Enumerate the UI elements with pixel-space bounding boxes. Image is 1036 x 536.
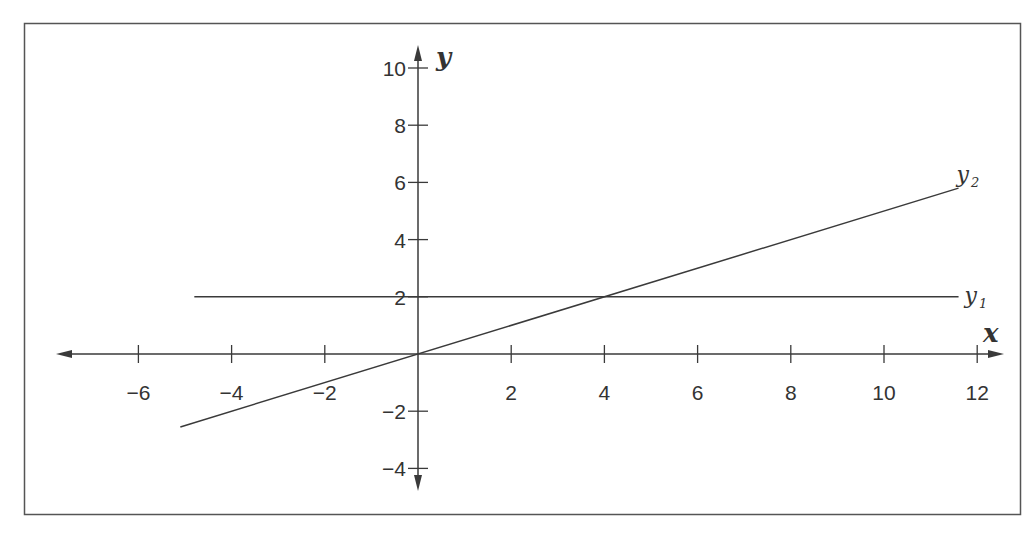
y-tick-label: 2 [394,286,406,309]
x-tick-label: 2 [505,381,517,404]
labels: −6−4−224681012−4−2246810y1y2xy [126,42,999,480]
series-label-y2: y2 [956,162,980,190]
y-tick-label: −2 [382,400,406,423]
x-tick-label: −4 [220,381,244,404]
x-axis-right-arrow [988,350,1004,358]
x-tick-label: 12 [966,381,989,404]
axes [56,45,1004,491]
chart-frame [25,24,1021,515]
y-axis-top-arrow [414,45,422,61]
series-label-subscript: 1 [979,296,987,311]
chart: −6−4−224681012−4−2246810y1y2xy [0,0,1036,536]
series-line-y2 [180,188,958,427]
y-axis-label: y [435,42,453,72]
ticks [138,68,977,468]
x-axis-label: x [982,318,999,348]
x-tick-label: 8 [785,381,797,404]
y-tick-label: 8 [394,114,406,137]
x-axis-left-arrow [56,350,72,358]
x-tick-label: −2 [313,381,337,404]
y-tick-label: 10 [383,57,406,80]
x-tick-label: 4 [599,381,611,404]
series-lines [180,188,958,427]
y-axis-bottom-arrow [414,475,422,491]
y-tick-label: −4 [382,457,406,480]
y-tick-label: 6 [394,171,406,194]
series-label-y1: y1 [964,283,988,311]
x-tick-label: 10 [872,381,895,404]
chart-canvas: −6−4−224681012−4−2246810y1y2xy [0,0,1036,536]
x-tick-label: −6 [126,381,150,404]
x-tick-label: 6 [692,381,704,404]
y-tick-label: 4 [394,229,406,252]
series-label-subscript: 2 [970,175,979,190]
